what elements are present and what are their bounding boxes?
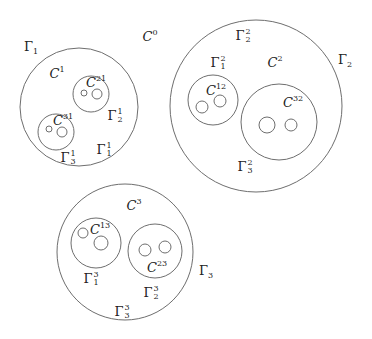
c23-inner-hole-right	[159, 241, 171, 253]
label-c21: C21	[86, 75, 106, 88]
c21-inner-hole-large	[92, 89, 102, 99]
label-gamma-2-1: Γ21	[210, 55, 225, 70]
label-c32: C32	[283, 95, 303, 108]
c21-inner-hole-small	[81, 90, 87, 96]
c13-inner-hole-small	[78, 228, 88, 238]
c32-hole-circle	[241, 84, 317, 160]
c32-inner-hole-left	[259, 117, 275, 133]
label-gamma-1-2: Γ12	[107, 108, 122, 123]
diagram-canvas	[0, 0, 372, 339]
c31-inner-hole-large	[57, 127, 67, 137]
label-c0: C0	[142, 29, 157, 42]
label-c3: C3	[126, 198, 141, 211]
label-c23: C23	[147, 260, 167, 273]
label-gamma-1-1: Γ11	[96, 142, 111, 157]
label-gamma-2: Γ2	[338, 53, 352, 70]
label-c13: C13	[90, 222, 110, 235]
label-gamma-1-3: Γ13	[60, 150, 75, 165]
label-c31: C31	[53, 113, 73, 126]
label-c12: C12	[206, 83, 226, 96]
c13-inner-hole-large	[94, 236, 108, 250]
gamma-3-outer-circle	[57, 184, 193, 320]
label-gamma-1: Γ1	[24, 40, 38, 57]
c12-inner-hole-left	[196, 101, 208, 113]
label-gamma-3-3: Γ33	[114, 304, 129, 319]
c23-inner-hole-left	[139, 244, 151, 256]
c31-inner-hole-small	[46, 126, 52, 132]
c32-inner-hole-right	[285, 119, 297, 131]
label-c1: C1	[49, 66, 64, 79]
label-gamma-3-2: Γ32	[143, 285, 158, 300]
label-c2: C2	[267, 55, 282, 68]
label-gamma-2-2: Γ22	[235, 28, 250, 43]
label-gamma-2-3: Γ23	[237, 159, 252, 174]
label-gamma-3: Γ3	[199, 264, 213, 281]
label-gamma-3-1: Γ31	[83, 271, 98, 286]
